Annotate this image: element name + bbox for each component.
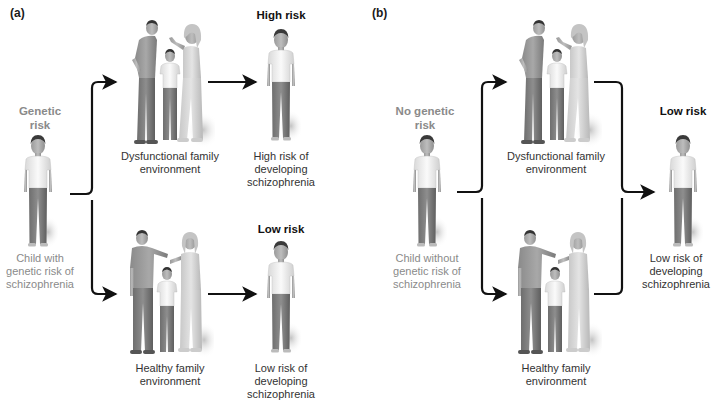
arrow-a-to-healthy [92,200,116,294]
brace-b-right [594,82,654,294]
brace-b-left [457,82,506,294]
arrow-a-to-dysfunctional [70,82,116,194]
arrow-b-to-healthy [482,198,506,294]
brace-b-right-lower [594,198,622,294]
arrow-b-to-dysfunctional [457,82,506,192]
arrow-b-to-low-risk [594,82,654,192]
connector-layer [0,0,711,414]
brace-a [70,82,116,294]
